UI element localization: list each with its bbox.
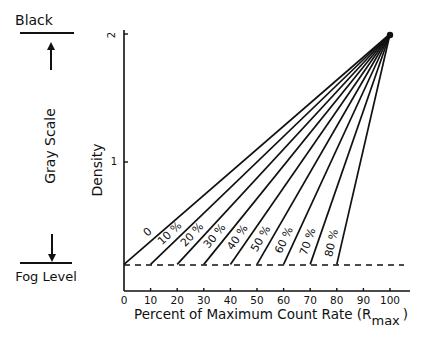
series-line (204, 34, 390, 264)
x-tick-label: 10 (144, 294, 157, 306)
density-chart: Black Gray Scale Fog Level Density 2 1 0… (0, 0, 436, 341)
x-axis-label: Percent of Maximum Count Rate (Rmax) (134, 306, 408, 328)
y-tick-2: 2 (106, 32, 117, 38)
series-label: 0 (141, 225, 155, 239)
down-arrowhead-icon (48, 254, 56, 262)
x-tick-label: 20 (171, 294, 184, 306)
x-tick-label: 50 (250, 294, 263, 306)
x-tick-label: 80 (330, 294, 343, 306)
x-tick-label: 90 (357, 294, 370, 306)
x-tick-label: 0 (121, 294, 128, 306)
gray-scale-label: Gray Scale (42, 108, 58, 184)
series-line (337, 34, 390, 264)
series-label: 50 % (248, 223, 273, 254)
apex-point (387, 32, 393, 38)
series-lines: 010 %20 %30 %40 %50 %60 %70 %80 % (124, 34, 390, 264)
gray-scale-legend: Black Gray Scale Fog Level (15, 12, 77, 284)
x-tick-label: 70 (304, 294, 317, 306)
y-tick-1: 1 (111, 156, 117, 167)
black-label: Black (15, 12, 54, 28)
x-tick-label: 30 (197, 294, 210, 306)
x-tick-label: 60 (277, 294, 290, 306)
series-line (257, 34, 390, 264)
series-label: 80 % (322, 228, 341, 258)
y-axis-label: Density (89, 143, 105, 196)
series-line (284, 34, 390, 264)
series-label: 30 % (201, 221, 229, 251)
x-tick-label: 40 (224, 294, 237, 306)
x-tick-label: 100 (380, 294, 400, 306)
fog-level-label: Fog Level (15, 269, 77, 284)
up-arrowhead-icon (47, 42, 55, 50)
series-label: 60 % (272, 225, 296, 256)
